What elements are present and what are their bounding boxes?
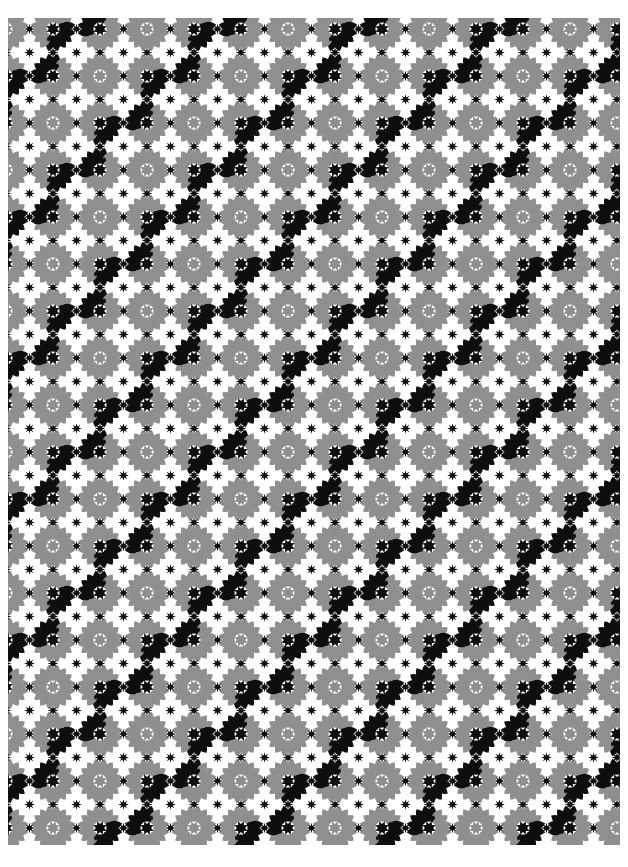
geometric-rosette-pattern-image	[0, 0, 628, 867]
pattern-page	[0, 0, 628, 867]
